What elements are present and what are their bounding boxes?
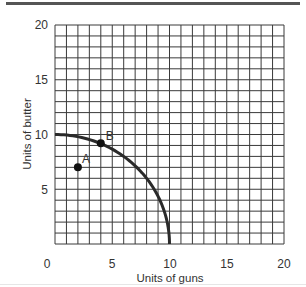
x-axis-label: Units of guns xyxy=(136,272,203,284)
bottom-rule xyxy=(0,284,306,285)
point-b-label: B xyxy=(106,129,114,143)
point-a xyxy=(74,163,82,171)
x-tick-5: 5 xyxy=(109,257,116,271)
x-tick-15: 15 xyxy=(220,257,234,271)
point-b xyxy=(97,139,105,147)
y-axis-label: Units of butter xyxy=(21,98,33,170)
y-tick-20: 20 xyxy=(35,18,49,32)
y-tick-10: 10 xyxy=(35,128,49,142)
ppf-chart: A B 20 15 10 5 0 5 10 15 20 Units of gun… xyxy=(0,0,306,287)
y-tick-15: 15 xyxy=(35,73,49,87)
x-tick-10: 10 xyxy=(163,257,177,271)
x-tick-20: 20 xyxy=(277,257,291,271)
y-tick-5: 5 xyxy=(41,183,48,197)
point-a-label: A xyxy=(82,152,90,166)
grid xyxy=(55,25,284,244)
x-tick-0: 0 xyxy=(44,257,51,271)
